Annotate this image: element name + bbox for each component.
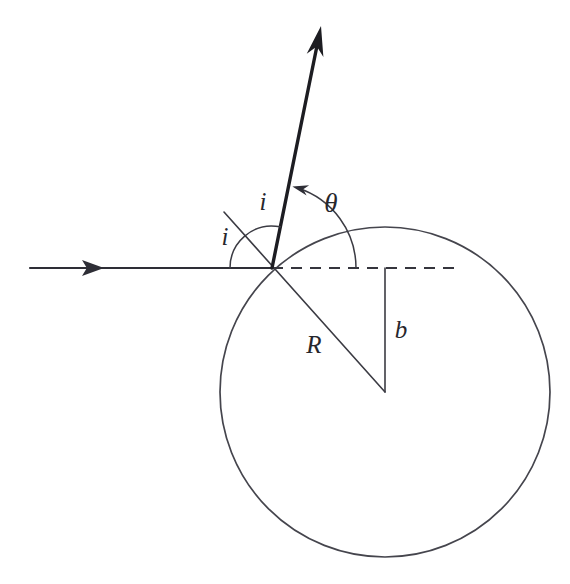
angle-arc-theta-arrowhead [292,185,309,195]
diagram-canvas: Ray refraction at a spherical surface i … [0,0,570,584]
label-impact-parameter-b: b [395,316,408,343]
refraction-diagram-svg: Ray refraction at a spherical surface i … [0,0,570,584]
outgoing-ray-line [272,44,317,268]
angle-arc-incidence-upper [245,226,281,236]
label-incidence-angle-upper: i [260,188,267,215]
surface-normal-line [224,212,385,392]
label-deflection-angle-theta: θ [324,188,337,218]
label-radius-R: R [305,331,321,358]
label-incidence-angle-lower: i [222,223,229,250]
angle-arc-incidence-lower [230,236,245,268]
